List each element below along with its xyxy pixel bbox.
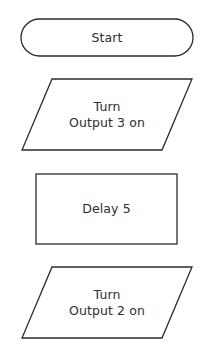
delay-node-label: Delay 5 (36, 174, 177, 244)
output2-node-line-1: Turn (94, 287, 121, 303)
delay-node-text: Delay 5 (82, 201, 130, 217)
output3-node-line-2: Output 3 on (69, 115, 145, 131)
output3-node-line-1: Turn (94, 99, 121, 115)
output2-node-label: Turn Output 2 on (22, 267, 192, 338)
start-node-text: Start (91, 30, 122, 46)
start-node-label: Start (21, 19, 193, 56)
output3-node-label: Turn Output 3 on (22, 79, 192, 150)
output2-node-line-2: Output 2 on (69, 303, 145, 319)
